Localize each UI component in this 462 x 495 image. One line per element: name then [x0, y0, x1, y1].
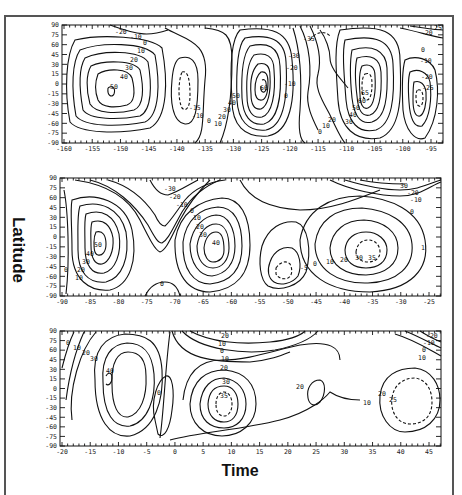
- x-tick-label: 20: [284, 448, 292, 456]
- x-tick-label: 30: [340, 448, 348, 456]
- svg-text:20: 20: [220, 364, 228, 372]
- y-tick-label: 0: [53, 385, 57, 393]
- y-tick-label: 15: [49, 375, 57, 383]
- x-tick-label: -5: [143, 448, 151, 456]
- x-tick-label: 40: [397, 448, 405, 456]
- svg-text:10: 10: [73, 344, 81, 352]
- svg-text:35: 35: [220, 392, 228, 400]
- y-tick-label: 30: [49, 366, 57, 374]
- y-tick-label: -60: [45, 423, 57, 431]
- x-tick-label: 10: [227, 448, 235, 456]
- svg-text:20: 20: [82, 349, 90, 357]
- x-tick-label: -10: [113, 448, 125, 456]
- x-tick-label: 25: [312, 448, 320, 456]
- x-tick-label: 35: [369, 448, 377, 456]
- svg-text:10: 10: [221, 355, 229, 363]
- y-tick-label: 60: [49, 346, 57, 354]
- svg-text:0: 0: [157, 389, 161, 397]
- y-tick-label: -30: [45, 404, 57, 412]
- y-tick-label: -90: [45, 442, 57, 450]
- y-tick-label: 45: [49, 356, 57, 364]
- svg-text:30: 30: [90, 355, 98, 363]
- svg-text:40: 40: [106, 367, 114, 375]
- y-tick-label: -45: [45, 414, 57, 422]
- x-tick-label: 45: [425, 448, 433, 456]
- y-tick-label: -15: [45, 394, 57, 402]
- x-tick-label: -20: [56, 448, 68, 456]
- svg-text:0: 0: [422, 346, 426, 354]
- y-tick-label: 75: [49, 337, 57, 345]
- x-tick-label: 15: [256, 448, 264, 456]
- svg-text:20: 20: [378, 390, 386, 398]
- x-tick-label: 0: [173, 448, 177, 456]
- y-tick-label: 90: [49, 327, 57, 335]
- svg-text:0: 0: [66, 339, 70, 347]
- svg-text:0: 0: [220, 347, 224, 355]
- y-tick-label: -75: [45, 433, 57, 441]
- svg-text:20: 20: [221, 332, 229, 340]
- svg-text:25: 25: [389, 396, 397, 404]
- svg-text:30: 30: [222, 378, 230, 386]
- x-tick-label: 5: [201, 448, 205, 456]
- x-tick-label: -15: [84, 448, 96, 456]
- panel-3-contours: [62, 331, 441, 440]
- svg-text:20: 20: [296, 383, 304, 391]
- svg-text:10: 10: [418, 354, 426, 362]
- svg-text:10: 10: [363, 399, 371, 407]
